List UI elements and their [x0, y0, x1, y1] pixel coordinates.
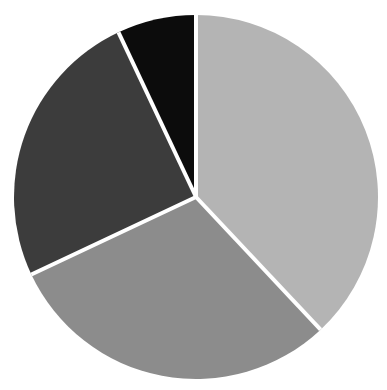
pie-chart-canvas: [0, 0, 387, 390]
pie-chart: [0, 0, 387, 390]
